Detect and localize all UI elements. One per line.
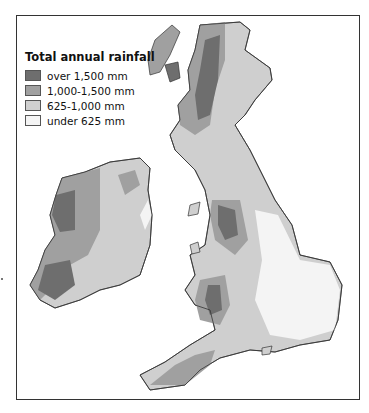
legend-item-1000-1500: 1,000-1,500 mm: [25, 83, 155, 98]
legend-swatch: [25, 115, 41, 126]
legend-swatch: [25, 70, 41, 81]
legend-item-over-1500: over 1,500 mm: [25, 68, 155, 83]
legend-item-under-625: under 625 mm: [25, 113, 155, 128]
legend-title: Total annual rainfall: [25, 50, 155, 64]
ireland: [30, 158, 152, 308]
legend: Total annual rainfall over 1,500 mm 1,00…: [25, 50, 155, 128]
legend-swatch: [25, 100, 41, 111]
legend-item-625-1000: 625-1,000 mm: [25, 98, 155, 113]
legend-swatch: [25, 85, 41, 96]
legend-label: 1,000-1,500 mm: [47, 85, 135, 97]
legend-label: under 625 mm: [47, 115, 125, 127]
legend-label: over 1,500 mm: [47, 70, 128, 82]
legend-label: 625-1,000 mm: [47, 100, 125, 112]
